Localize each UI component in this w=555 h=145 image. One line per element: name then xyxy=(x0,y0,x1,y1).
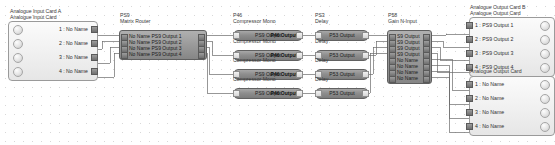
output-port[interactable] xyxy=(362,32,369,39)
gain-name: Gain N-Input xyxy=(388,18,417,24)
input-port[interactable] xyxy=(121,52,128,59)
output-port[interactable] xyxy=(91,54,98,61)
output-card-row[interactable]: 1 : No Name xyxy=(470,77,554,91)
input-port[interactable] xyxy=(466,36,473,43)
delay-block-text: P53 Output xyxy=(317,89,367,98)
output-level-knob[interactable] xyxy=(540,80,550,90)
delay-block-label: Delay xyxy=(315,18,328,24)
output-row-label: 2 : No Name xyxy=(475,95,504,101)
output-row-label: 3 : No Name xyxy=(475,109,504,115)
input-port[interactable] xyxy=(466,123,473,130)
output-card-row[interactable]: 2 : PS9 Output 2 xyxy=(470,32,554,46)
matrix-router-body[interactable]: No Name PS9 Output 1 No Name PS9 Output … xyxy=(119,30,207,60)
gain-row-label: No Name xyxy=(397,74,418,83)
output-level-knob[interactable] xyxy=(540,108,550,118)
input-card-row[interactable]: 3 : No Name xyxy=(9,50,97,64)
input-card-row[interactable]: 4 : No Name xyxy=(9,64,97,78)
output-port[interactable] xyxy=(362,90,369,97)
input-port[interactable] xyxy=(466,22,473,29)
matrix-router-row-label: No Name PS9 Output 4 xyxy=(129,50,182,59)
input-card-body[interactable]: 1 : No Name 2 : No Name 3 : No Name 4 : … xyxy=(8,21,98,81)
input-row-label: 1 : No Name xyxy=(59,26,88,32)
output-port[interactable] xyxy=(198,52,205,59)
output-card-row[interactable]: 2 : No Name xyxy=(470,91,554,105)
input-card-row[interactable]: 2 : No Name xyxy=(9,36,97,50)
compressor-block-label: Compressor Mono xyxy=(233,76,276,82)
output-card-row[interactable]: 1 : PS9 Output 1 xyxy=(470,18,554,32)
output-level-knob[interactable] xyxy=(540,63,550,73)
compressor-block[interactable]: PS9 Output P46 Output 4 xyxy=(234,88,302,99)
input-port[interactable] xyxy=(466,95,473,102)
input-row-label: 3 : No Name xyxy=(59,54,88,60)
output-card-b-title-line2: Analogue Output Card xyxy=(470,10,521,16)
input-port[interactable] xyxy=(389,76,396,83)
output-port[interactable] xyxy=(296,32,303,39)
input-level-knob[interactable] xyxy=(13,53,23,63)
gain-body[interactable]: S9 Output S9 Output S9 Output S9 Output xyxy=(387,30,432,84)
compressor-block-text-b: P46 Output 4 xyxy=(235,89,319,98)
delay-block-label: Delay xyxy=(315,76,328,82)
gain-row[interactable]: No Name xyxy=(388,74,431,83)
output-port[interactable] xyxy=(91,68,98,75)
input-card-row[interactable]: 1 : No Name xyxy=(9,22,97,36)
compressor-block-label: Compressor Mono xyxy=(233,57,276,63)
output-row-label: 3 : PS9 Output 3 xyxy=(475,50,513,56)
matrix-router-name: Matrix Router xyxy=(120,18,150,24)
output-row-label: 4 : No Name xyxy=(475,123,504,129)
input-row-label: 2 : No Name xyxy=(59,40,88,46)
delay-block-label: Delay xyxy=(315,57,328,63)
output-port[interactable] xyxy=(91,26,98,33)
output-card-row[interactable]: 3 : PS9 Output 3 xyxy=(470,46,554,60)
output-port[interactable] xyxy=(296,52,303,59)
input-row-label: 4 : No Name xyxy=(59,68,88,74)
output-port[interactable] xyxy=(423,76,430,83)
output-row-label: 1 : No Name xyxy=(475,81,504,87)
output-port[interactable] xyxy=(362,52,369,59)
output-port[interactable] xyxy=(362,71,369,78)
output-row-label: 2 : PS9 Output 2 xyxy=(475,36,513,42)
input-card-title-line2: Analogue Input Card xyxy=(10,14,57,20)
output-level-knob[interactable] xyxy=(540,122,550,132)
delay-block-label: Delay xyxy=(315,38,328,44)
input-port[interactable] xyxy=(466,109,473,116)
input-level-knob[interactable] xyxy=(13,67,23,77)
output-level-knob[interactable] xyxy=(540,35,550,45)
matrix-router-row[interactable]: No Name PS9 Output 4 xyxy=(120,50,206,59)
output-port[interactable] xyxy=(296,90,303,97)
output-row-label: 1 : PS9 Output 1 xyxy=(475,22,513,28)
compressor-block-label: Compressor Mono xyxy=(233,18,276,24)
diagram-canvas: Analogue Input Card A Analogue Input Car… xyxy=(0,0,555,145)
output-port[interactable] xyxy=(91,40,98,47)
input-port[interactable] xyxy=(466,81,473,88)
output-card-c-title: Analogue Output Card xyxy=(470,68,522,74)
input-level-knob[interactable] xyxy=(13,39,23,49)
output-level-knob[interactable] xyxy=(540,94,550,104)
output-level-knob[interactable] xyxy=(540,21,550,31)
output-card-row[interactable]: 4 : No Name xyxy=(470,119,554,133)
compressor-block-label: Compressor Mono xyxy=(233,38,276,44)
delay-block[interactable]: P53 Output xyxy=(316,88,368,99)
input-level-knob[interactable] xyxy=(13,25,23,35)
output-card-c-body[interactable]: 1 : No Name 2 : No Name 3 : No Name 4 : … xyxy=(469,76,555,136)
output-card-row[interactable]: 3 : No Name xyxy=(470,105,554,119)
output-level-knob[interactable] xyxy=(540,49,550,59)
input-port[interactable] xyxy=(466,50,473,57)
output-port[interactable] xyxy=(296,71,303,78)
